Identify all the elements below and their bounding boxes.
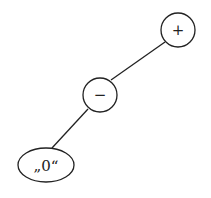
- node-zero-label: „0“: [34, 157, 59, 175]
- node-zero: „0“: [18, 148, 74, 182]
- node-minus-label: −: [94, 86, 107, 104]
- edge-minus-zero: [52, 109, 88, 148]
- edge-root-minus: [111, 42, 165, 80]
- expression-tree: + − „0“: [0, 0, 211, 198]
- node-plus: +: [161, 13, 195, 47]
- node-plus-label: +: [172, 21, 185, 39]
- node-minus: −: [83, 78, 117, 112]
